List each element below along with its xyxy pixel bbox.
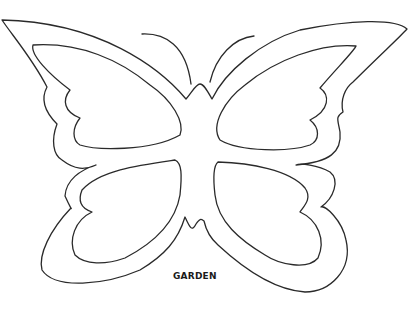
caption-label: GARDEN bbox=[173, 271, 217, 281]
left-lower-inner-wing bbox=[72, 160, 181, 263]
right-antenna bbox=[210, 36, 254, 82]
right-upper-inner-wing bbox=[217, 46, 356, 150]
left-antenna bbox=[142, 34, 191, 84]
outer-outline bbox=[2, 20, 407, 292]
right-lower-inner-wing bbox=[214, 162, 321, 265]
